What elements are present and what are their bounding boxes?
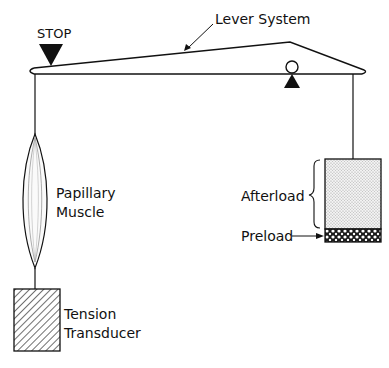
muscle-label-line1: Papillary	[56, 185, 116, 201]
stop-label: STOP	[37, 26, 71, 41]
lever-label-group: Lever System	[184, 11, 310, 51]
stop-marker: STOP	[37, 26, 71, 66]
stop-triangle-icon	[39, 44, 63, 66]
tension-transducer	[14, 289, 60, 351]
transducer-label-line1: Tension	[63, 306, 116, 322]
preload-arrow-icon	[316, 233, 324, 239]
lever-system-diagram: STOP Lever System Papillary Muscle Tensi…	[0, 0, 389, 368]
preload-label: Preload	[241, 228, 293, 244]
muscle-label-line2: Muscle	[56, 204, 104, 220]
fulcrum-triangle-icon	[284, 74, 300, 88]
papillary-muscle	[23, 134, 47, 268]
fulcrum-pivot-icon	[286, 61, 298, 73]
afterload-label: Afterload	[241, 188, 305, 204]
afterload-brace-icon	[309, 160, 320, 228]
lever-beam	[30, 42, 366, 74]
preload-weight	[325, 229, 381, 242]
afterload-weight	[325, 159, 381, 229]
lever-label: Lever System	[215, 11, 310, 27]
arrow-head-icon	[184, 44, 191, 51]
transducer-label-line2: Transducer	[63, 325, 141, 341]
